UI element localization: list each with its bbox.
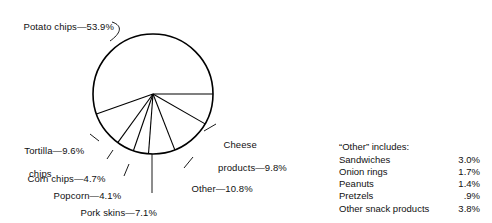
legend-item-name: Sandwiches [339,154,447,166]
legend-table: Sandwiches 3.0% Onion rings 1.7% Peanuts… [339,154,480,215]
legend-item-pct: 3.8% [447,203,480,215]
slice-label-potato-chips-text: Potato chips—53.9% [23,21,114,32]
legend-item-pct: 1.7% [447,166,480,178]
slice-label-pork-skins: Pork skins—7.1% [75,195,157,218]
slice-label-cheese-products-text: Cheese [223,139,256,150]
other-includes-legend: “Other” includes: Sandwiches 3.0% Onion … [339,141,487,215]
leader-line-cheese-products [204,124,216,131]
leader-line-other [184,157,193,168]
legend-row: Onion rings 1.7% [339,166,480,178]
legend-row: Pretzels .9% [339,190,480,202]
legend-item-pct: 3.0% [447,154,480,166]
legend-item-name: Pretzels [339,190,447,202]
leader-line-tortilla-chips [90,134,99,141]
legend-row: Peanuts 1.4% [339,178,480,190]
slice-label-potato-chips: Potato chips—53.9% [18,9,114,32]
legend-title: “Other” includes: [339,141,487,153]
legend-item-name: Onion rings [339,166,447,178]
legend-item-pct: .9% [447,190,480,202]
legend-row: Sandwiches 3.0% [339,154,480,166]
legend-item-pct: 1.4% [447,178,480,190]
legend-item-name: Peanuts [339,178,447,190]
slice-label-pork-skins-text: Pork skins—7.1% [80,207,156,218]
slice-label-tortilla-chips-text: Tortilla—9.6% [24,145,84,156]
legend-row: Other snack products 3.8% [339,203,480,215]
slice-label-cheese-products: Cheese products—9.8% [218,127,287,185]
legend-item-name: Other snack products [339,203,447,215]
slice-label-cheese-products-text-2: products—9.8% [218,162,287,174]
leader-line-corn-chips [107,150,113,159]
leader-line-popcorn [124,164,129,176]
